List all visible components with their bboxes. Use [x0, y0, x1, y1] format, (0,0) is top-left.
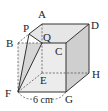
label-B: B — [6, 37, 13, 49]
label-E: E — [40, 74, 47, 86]
cube-diagram: A D P Q B C E H F G 6 cm — [0, 0, 108, 111]
label-Q: Q — [43, 31, 51, 43]
label-C: C — [55, 45, 62, 57]
label-H: H — [92, 68, 100, 80]
label-D: D — [91, 19, 99, 31]
label-P: P — [23, 22, 29, 34]
label-G: G — [65, 93, 73, 105]
dimension-label: 6 cm — [33, 94, 53, 105]
label-F: F — [5, 87, 11, 99]
label-A: A — [38, 8, 46, 20]
